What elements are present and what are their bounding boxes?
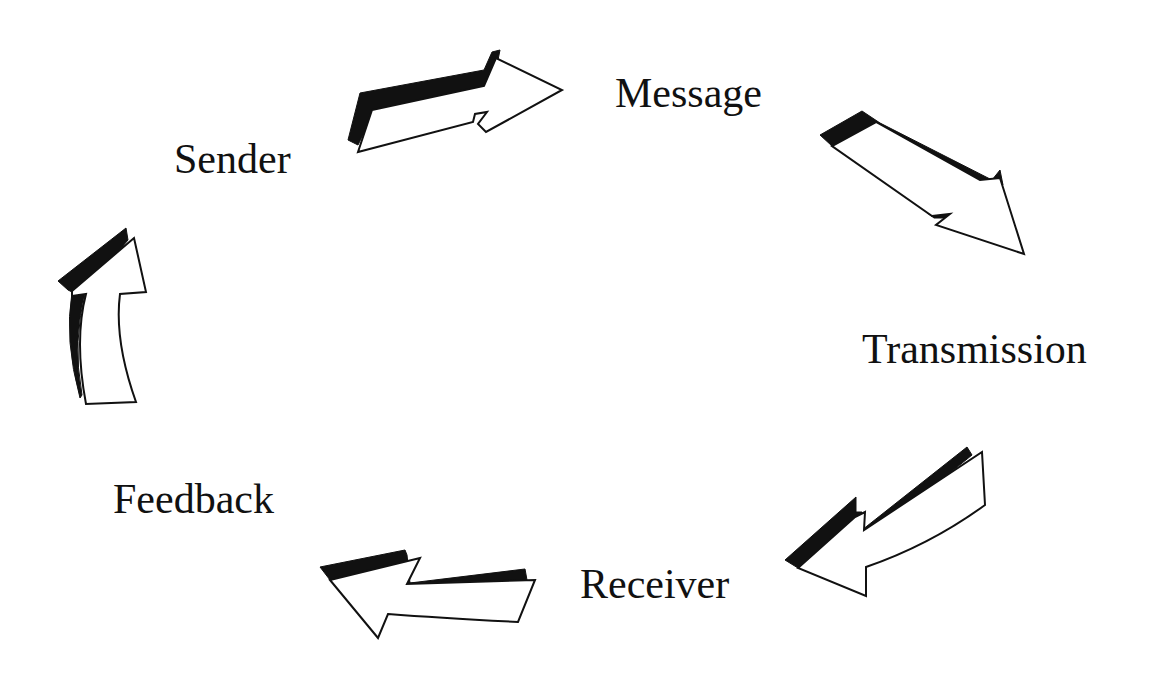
arrow-sender-to-message-icon xyxy=(348,50,562,152)
arrow-message-to-transmission-icon xyxy=(820,111,1024,254)
arrow-feedback-to-sender-icon xyxy=(58,228,146,404)
cycle-arrows xyxy=(0,0,1168,678)
arrow-receiver-to-feedback-icon xyxy=(320,550,535,638)
arrow-transmission-to-receiver-icon xyxy=(785,447,985,596)
